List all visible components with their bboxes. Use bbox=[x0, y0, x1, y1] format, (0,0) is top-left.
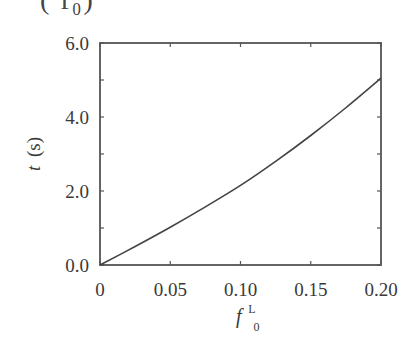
y-axis-label: t (s) bbox=[23, 137, 45, 171]
line-chart: 00.050.100.150.200.02.04.06.0 t (s) f L … bbox=[0, 0, 418, 351]
x-tick-label: 0 bbox=[95, 279, 105, 300]
plot-frame bbox=[100, 43, 381, 265]
x-tick-label: 0.20 bbox=[364, 279, 397, 300]
data-curve bbox=[100, 78, 381, 265]
axis-ticks bbox=[100, 43, 381, 265]
y-tick-label: 6.0 bbox=[65, 33, 89, 54]
x-tick-label: 0.10 bbox=[224, 279, 257, 300]
y-tick-label: 4.0 bbox=[65, 107, 89, 128]
tick-labels: 00.050.100.150.200.02.04.06.0 bbox=[65, 33, 397, 300]
y-tick-label: 2.0 bbox=[65, 181, 89, 202]
x-tick-label: 0.05 bbox=[154, 279, 187, 300]
x-axis-label: f L 0 bbox=[236, 296, 260, 334]
x-tick-label: 0.15 bbox=[294, 279, 327, 300]
y-tick-label: 0.0 bbox=[65, 255, 89, 276]
